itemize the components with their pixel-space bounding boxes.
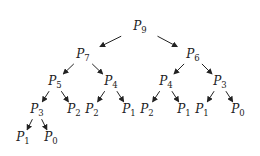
tree-node-p1: P1 (195, 103, 209, 118)
arrow-icon (202, 64, 212, 74)
node-label: P (186, 47, 194, 61)
node-subscript: 3 (221, 80, 226, 90)
node-label: P (67, 102, 75, 116)
arrow-icon (61, 91, 68, 101)
node-subscript: 1 (24, 136, 29, 146)
node-label: P (159, 74, 167, 88)
tree-node-p2: P2 (67, 103, 81, 118)
node-subscript: 9 (141, 25, 146, 35)
node-subscript: 5 (56, 80, 61, 90)
node-label: P (177, 102, 185, 116)
node-subscript: 0 (239, 108, 244, 118)
node-subscript: 3 (38, 108, 43, 118)
tree-node-p4: P4 (159, 75, 173, 90)
arrow-icon (172, 91, 179, 101)
tree-node-p3: P3 (30, 103, 44, 118)
arrow-icon (153, 91, 160, 101)
node-label: P (231, 102, 239, 116)
arrow-icon (98, 91, 105, 101)
node-label: P (76, 47, 84, 61)
node-label: P (140, 102, 148, 116)
node-label: P (195, 102, 203, 116)
node-label: P (44, 130, 52, 144)
tree-node-p0: P0 (44, 131, 58, 146)
tree-node-p4: P4 (104, 75, 118, 90)
node-label: P (48, 74, 56, 88)
node-subscript: 1 (130, 108, 135, 118)
node-subscript: 6 (194, 53, 199, 63)
node-subscript: 4 (112, 80, 117, 90)
node-label: P (85, 102, 93, 116)
node-subscript: 2 (148, 108, 153, 118)
node-subscript: 2 (75, 108, 80, 118)
tree-node-p1: P1 (122, 103, 136, 118)
tree-node-p5: P5 (48, 75, 62, 90)
arrow-icon (92, 64, 102, 74)
node-label: P (104, 74, 112, 88)
node-subscript: 1 (185, 108, 190, 118)
tree-node-p9: P9 (133, 20, 147, 35)
tree-node-p1: P1 (177, 103, 191, 118)
tree-node-p3: P3 (213, 75, 227, 90)
node-label: P (16, 130, 24, 144)
node-label: P (133, 19, 141, 33)
node-label: P (122, 102, 130, 116)
arrow-icon (226, 91, 233, 101)
arrow-icon (100, 36, 121, 46)
tree-node-p2: P2 (85, 103, 99, 118)
arrow-icon (63, 64, 73, 74)
arrow-icon (174, 64, 184, 74)
tree-node-p7: P7 (76, 48, 90, 63)
node-subscript: 0 (52, 136, 57, 146)
arrow-icon (117, 91, 124, 101)
node-label: P (30, 102, 38, 116)
node-subscript: 4 (167, 80, 172, 90)
arrow-icon (207, 91, 214, 101)
arrow-icon (42, 91, 49, 101)
tree-node-p2: P2 (140, 103, 154, 118)
node-label: P (213, 74, 221, 88)
arrow-icon (42, 119, 47, 129)
tree-node-p6: P6 (186, 48, 200, 63)
arrow-icon (27, 119, 32, 129)
arrow-icon (158, 36, 178, 46)
node-subscript: 2 (93, 108, 98, 118)
tree-node-p1: P1 (16, 131, 30, 146)
node-subscript: 7 (84, 53, 89, 63)
recursion-tree-diagram: P9P7P6P5P4P4P3P3P2P2P1P2P1P1P0P1P0 (0, 0, 260, 156)
node-subscript: 1 (203, 108, 208, 118)
tree-node-p0: P0 (231, 103, 245, 118)
